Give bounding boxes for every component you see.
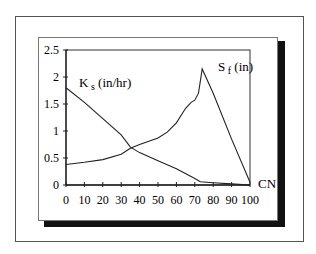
- series-label-ks: K s (in/hr): [79, 75, 131, 92]
- x-tick-label: 10: [78, 193, 90, 207]
- x-tick-label: 70: [189, 193, 201, 207]
- y-tick-label: 1: [53, 124, 59, 138]
- x-tick-label: 0: [63, 193, 69, 207]
- x-tick-label: 20: [97, 193, 109, 207]
- x-tick-label: 30: [115, 193, 127, 207]
- series-label-sf: S f (in): [218, 59, 253, 76]
- line-chart: 00.511.522.50102030405060708090100CNK s …: [0, 0, 316, 254]
- x-axis-label: CN: [258, 176, 277, 191]
- x-tick-label: 50: [152, 193, 164, 207]
- y-tick-label: 2.5: [44, 43, 59, 57]
- x-tick-label: 100: [241, 193, 259, 207]
- y-tick-label: 2: [53, 70, 59, 84]
- x-tick-label: 80: [207, 193, 219, 207]
- x-tick-label: 90: [226, 193, 238, 207]
- series-line-ks: [66, 88, 250, 185]
- y-tick-label: 1.5: [44, 97, 59, 111]
- y-tick-label: 0.5: [44, 151, 59, 165]
- x-tick-label: 40: [134, 193, 146, 207]
- x-tick-label: 60: [170, 193, 182, 207]
- y-tick-label: 0: [53, 178, 59, 192]
